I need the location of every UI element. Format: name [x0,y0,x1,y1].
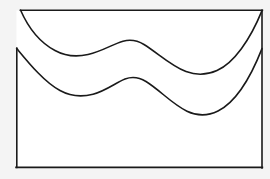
envelope-illustration [0,0,270,179]
envelope-body-fill [17,11,263,169]
illustration-canvas: Envelope with wavy flap Black line drawi… [0,0,270,179]
